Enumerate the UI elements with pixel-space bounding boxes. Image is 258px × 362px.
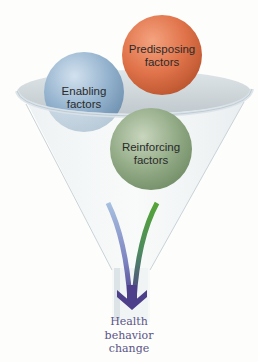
predisposing-label: Predisposing factors <box>122 43 202 69</box>
reinforcing-label: Reinforcing factors <box>111 141 191 167</box>
enabling-label: Enabling factors <box>44 85 124 111</box>
outcome-label: Health behavior change <box>79 315 179 356</box>
funnel-diagram: Predisposing factors Enabling factors Re… <box>0 0 258 362</box>
